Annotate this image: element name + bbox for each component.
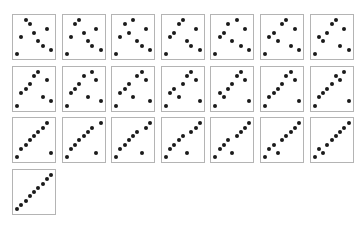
data-point — [297, 48, 301, 52]
data-point — [135, 74, 139, 78]
data-point — [313, 52, 317, 56]
data-point — [284, 18, 288, 22]
data-point — [330, 138, 334, 142]
data-point — [213, 52, 217, 56]
data-point — [82, 31, 86, 35]
data-point — [185, 39, 189, 43]
data-point — [164, 104, 168, 108]
data-point — [77, 18, 81, 22]
step-panel — [12, 66, 56, 112]
step-panel — [260, 117, 304, 163]
data-point — [99, 99, 103, 103]
data-point — [131, 95, 135, 99]
data-point — [338, 78, 342, 82]
data-point — [263, 52, 267, 56]
data-point — [172, 87, 176, 91]
data-point — [189, 130, 193, 134]
data-point — [90, 126, 94, 130]
data-point — [32, 31, 36, 35]
data-point — [168, 91, 172, 95]
data-point — [140, 44, 144, 48]
data-point — [65, 52, 69, 56]
data-point — [243, 126, 247, 130]
data-point — [313, 155, 317, 159]
data-point — [28, 82, 32, 86]
data-point — [263, 155, 267, 159]
step-panel — [161, 117, 205, 163]
data-point — [86, 130, 90, 134]
data-point — [15, 52, 19, 56]
data-point — [247, 48, 251, 52]
data-point — [334, 134, 338, 138]
data-point — [213, 155, 217, 159]
data-point — [321, 91, 325, 95]
data-point — [267, 35, 271, 39]
data-point — [177, 95, 181, 99]
data-point — [28, 138, 32, 142]
data-point — [19, 147, 23, 151]
data-point — [86, 39, 90, 43]
data-point — [41, 126, 45, 130]
data-point — [289, 44, 293, 48]
data-point — [235, 74, 239, 78]
data-point — [41, 95, 45, 99]
data-point — [118, 91, 122, 95]
data-point — [65, 155, 69, 159]
data-point — [194, 78, 198, 82]
data-point — [77, 138, 81, 142]
step-panel — [310, 14, 354, 60]
step-panel — [62, 14, 106, 60]
data-point — [189, 44, 193, 48]
data-point — [338, 130, 342, 134]
step-panel — [12, 169, 56, 215]
data-point — [181, 134, 185, 138]
step-panel — [210, 66, 254, 112]
data-point — [140, 151, 144, 155]
data-point — [267, 95, 271, 99]
data-point — [73, 87, 77, 91]
data-point — [280, 82, 284, 86]
data-point — [36, 186, 40, 190]
data-point — [194, 27, 198, 31]
step-panel — [210, 117, 254, 163]
data-point — [181, 18, 185, 22]
data-point — [36, 39, 40, 43]
data-point — [226, 87, 230, 91]
data-point — [284, 74, 288, 78]
data-point — [45, 177, 49, 181]
data-point — [32, 134, 36, 138]
data-point — [90, 44, 94, 48]
data-point — [317, 147, 321, 151]
data-point — [230, 82, 234, 86]
data-point — [347, 48, 351, 52]
step-panel — [12, 14, 56, 60]
step-panel — [310, 117, 354, 163]
data-point — [77, 82, 81, 86]
data-point — [239, 44, 243, 48]
data-point — [325, 87, 329, 91]
data-point — [123, 143, 127, 147]
data-point — [148, 121, 152, 125]
data-point — [293, 78, 297, 82]
data-point — [222, 31, 226, 35]
data-point — [32, 190, 36, 194]
data-point — [280, 22, 284, 26]
data-point — [82, 74, 86, 78]
data-point — [222, 143, 226, 147]
data-point — [235, 18, 239, 22]
step-panel — [310, 66, 354, 112]
data-point — [24, 87, 28, 91]
data-point — [114, 104, 118, 108]
data-point — [82, 134, 86, 138]
data-point — [218, 147, 222, 151]
data-point — [342, 27, 346, 31]
data-point — [148, 99, 152, 103]
data-point — [194, 126, 198, 130]
data-point — [86, 95, 90, 99]
data-point — [65, 104, 69, 108]
step-panel — [111, 117, 155, 163]
data-point — [272, 91, 276, 95]
data-point — [243, 78, 247, 82]
data-point — [280, 138, 284, 142]
data-point — [15, 155, 19, 159]
